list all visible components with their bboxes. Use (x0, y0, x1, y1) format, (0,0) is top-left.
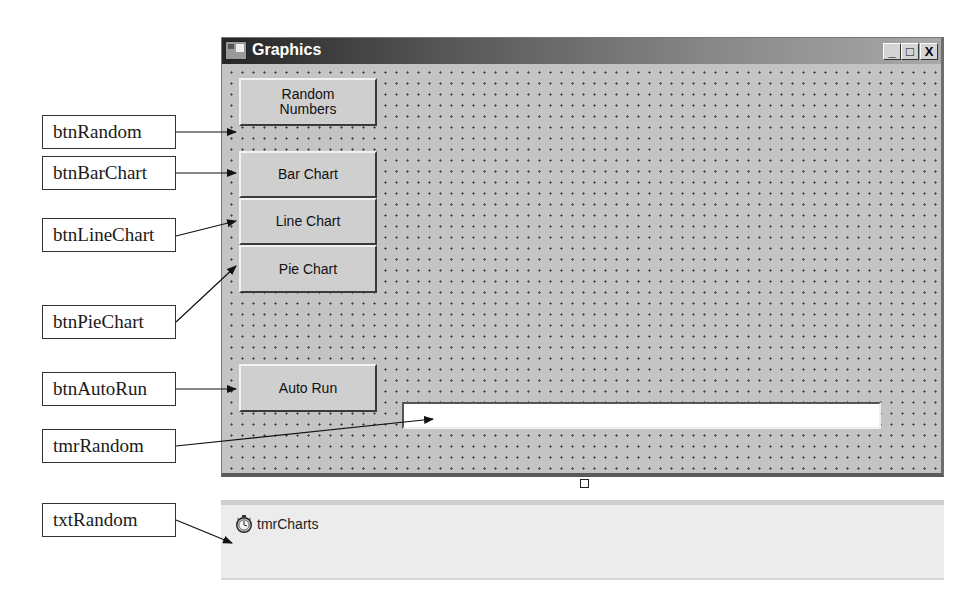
random-numbers-label-line1: Random (282, 87, 335, 102)
callout-btnautorun: btnAutoRun (42, 372, 176, 406)
callout-btnpiechart: btnPieChart (42, 305, 176, 339)
window-title: Graphics (252, 41, 321, 59)
callout-btnlinechart: btnLineChart (42, 218, 176, 252)
callout-tmrrandom: tmrRandom (42, 429, 176, 463)
minimize-button[interactable]: _ (883, 43, 901, 60)
random-numbers-button[interactable]: Random Numbers (239, 78, 377, 126)
title-bar[interactable]: Graphics _ □ X (222, 38, 941, 64)
close-button[interactable]: X (920, 43, 938, 60)
bar-chart-button[interactable]: Bar Chart (239, 151, 377, 198)
tray-item-tmrcharts[interactable]: tmrCharts (235, 515, 318, 533)
auto-run-button[interactable]: Auto Run (239, 364, 377, 412)
line-chart-button[interactable]: Line Chart (239, 198, 377, 245)
pie-chart-button[interactable]: Pie Chart (239, 245, 377, 293)
tmrcharts-label: tmrCharts (257, 516, 318, 532)
form-icon (225, 41, 247, 60)
callout-btnbarchart: btnBarChart (42, 156, 176, 190)
stopwatch-icon (235, 515, 253, 533)
random-textbox[interactable] (402, 402, 881, 429)
resize-handle[interactable] (580, 479, 589, 488)
component-tray: tmrCharts (221, 500, 944, 580)
form-design-surface[interactable]: Random Numbers Bar Chart Line Chart Pie … (222, 64, 941, 473)
graphics-form-window: Graphics _ □ X Random Numbers Bar Chart … (221, 37, 944, 477)
callout-btnrandom: btnRandom (42, 115, 176, 149)
random-numbers-label-line2: Numbers (280, 102, 337, 117)
maximize-button[interactable]: □ (901, 43, 919, 60)
callout-txtrandom: txtRandom (42, 503, 176, 537)
